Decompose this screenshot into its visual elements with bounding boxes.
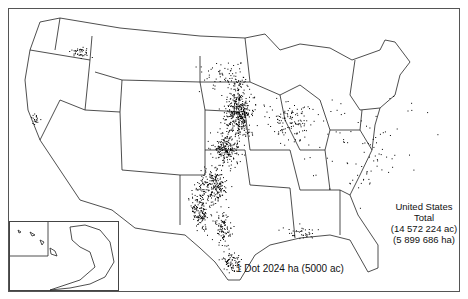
us-total-legend: United States Total (14 572 224 ac) (5 8… bbox=[384, 201, 464, 245]
total-hectares: (5 899 686 ha) bbox=[384, 234, 464, 245]
alaska-hawaii-inset bbox=[9, 221, 119, 291]
total-label-country: United States bbox=[384, 201, 464, 212]
total-label-word: Total bbox=[384, 212, 464, 223]
dot-value-legend: 1 Dot 2024 ha (5000 ac) bbox=[236, 263, 344, 274]
total-acres: (14 572 224 ac) bbox=[384, 223, 464, 234]
inset-map bbox=[10, 222, 120, 292]
